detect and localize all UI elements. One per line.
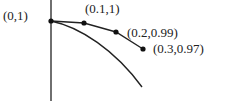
- point-label-2: (0.2,0.99): [127, 25, 178, 40]
- point-marker-2: [113, 29, 118, 34]
- point-marker-3: [140, 46, 145, 51]
- point-label-1: (0.1,1): [85, 1, 120, 16]
- point-label-3: (0.3,0.97): [153, 41, 204, 56]
- point-marker-0: [48, 18, 53, 23]
- diagram-canvas: (0,1) (0.1,1) (0.2,0.99) (0.3,0.97): [0, 0, 225, 103]
- point-label-0: (0,1): [3, 8, 28, 23]
- point-marker-1: [81, 20, 86, 25]
